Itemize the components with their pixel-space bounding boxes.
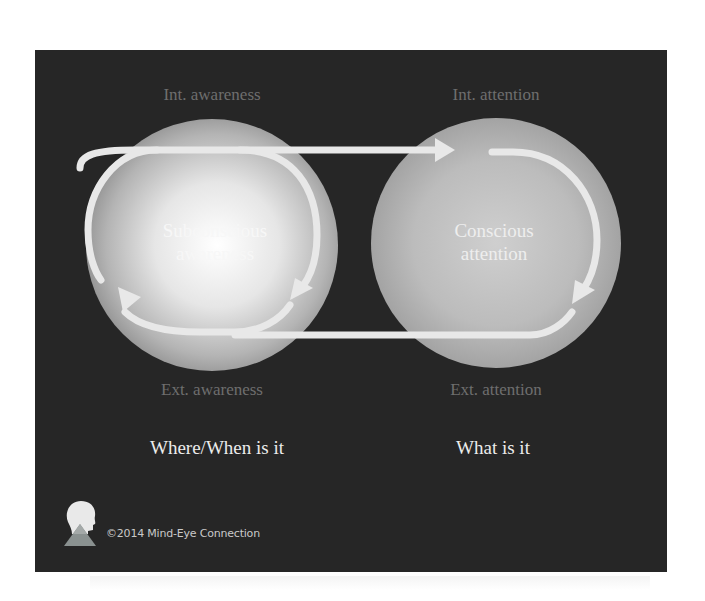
where-when-label: Where/When is it [150, 437, 284, 459]
copyright-text: ©2014 Mind-Eye Connection [106, 527, 260, 540]
int-awareness-label: Int. awareness [163, 85, 260, 105]
footer: ©2014 Mind-Eye Connection [60, 498, 260, 548]
int-attention-label: Int. attention [453, 85, 540, 105]
ext-awareness-label: Ext. awareness [161, 380, 263, 400]
conscious-attention-text: Conscious attention [454, 219, 533, 265]
awareness-attention-diagram [35, 50, 667, 572]
circle-left-line2: awareness [163, 242, 268, 265]
circle-left-line1: Subconscious [163, 219, 268, 242]
page-shadow [90, 576, 650, 590]
circle-right-line2: attention [454, 242, 533, 265]
head-pyramid-logo-icon [60, 498, 100, 548]
ext-attention-label: Ext. attention [450, 380, 542, 400]
circle-right-line1: Conscious [454, 219, 533, 242]
what-label: What is it [456, 437, 530, 459]
slide: Int. awareness Int. attention Ext. aware… [35, 50, 667, 572]
subconscious-awareness-text: Subconscious awareness [163, 219, 268, 265]
